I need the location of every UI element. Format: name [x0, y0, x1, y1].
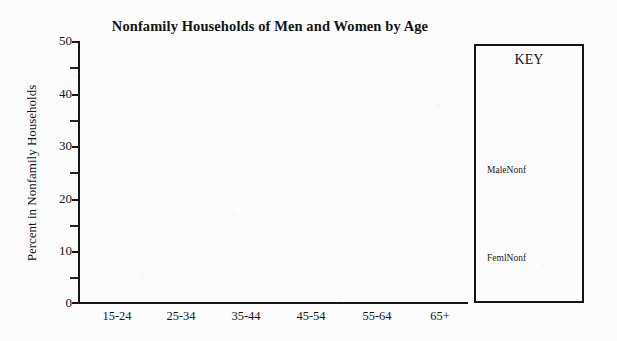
- y-tick-mark-30: [72, 146, 79, 148]
- y-tick-mark-20: [72, 199, 79, 201]
- y-tick-mark-40: [72, 94, 79, 96]
- y-axis-tick-label-column: 50 40 30 20 10 0: [38, 0, 72, 341]
- x-axis-line: [78, 302, 468, 304]
- y-tick-label-50: 50: [40, 34, 72, 47]
- chart-title: Nonfamily Households of Men and Women by…: [70, 18, 470, 35]
- x-axis-category-25-34: 25-34: [151, 309, 211, 324]
- y-tick-mark-50: [72, 41, 79, 43]
- y-tick-mark-35: [70, 120, 78, 122]
- y-tick-mark-15: [70, 225, 78, 227]
- legend-key-box: KEY MaleNonf FemlNonf: [474, 44, 584, 303]
- y-tick-mark-10: [72, 251, 79, 253]
- legend-title: KEY: [476, 52, 582, 68]
- x-axis-category-35-44: 35-44: [216, 309, 276, 324]
- y-tick-label-10: 10: [40, 244, 72, 257]
- y-tick-label-0: 0: [40, 296, 72, 309]
- y-tick-mark-5: [70, 277, 78, 279]
- y-tick-label-20: 20: [40, 192, 72, 205]
- x-axis-category-65-plus: 65+: [410, 309, 470, 324]
- y-tick-mark-25: [70, 172, 78, 174]
- legend-entry-male-nonfamily: MaleNonf: [487, 165, 526, 175]
- legend-entry-female-nonfamily: FemlNonf: [487, 253, 526, 263]
- x-axis-category-55-64: 55-64: [347, 309, 407, 324]
- y-tick-label-30: 30: [40, 139, 72, 152]
- chart-figure: Nonfamily Households of Men and Women by…: [0, 0, 617, 341]
- y-tick-label-40: 40: [40, 87, 72, 100]
- x-axis-category-45-54: 45-54: [281, 309, 341, 324]
- x-axis-category-15-24: 15-24: [87, 309, 147, 324]
- y-tick-mark-45: [70, 67, 78, 69]
- plot-area: [80, 42, 468, 302]
